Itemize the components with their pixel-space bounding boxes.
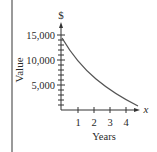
- x-axis-title: Years: [92, 131, 115, 142]
- x-axis-arrow-icon: [134, 108, 140, 112]
- x-tick-label-1: 1: [75, 117, 80, 128]
- y-tick-label-10000: 10,000: [26, 55, 55, 66]
- y-axis-ticks: [57, 35, 65, 105]
- x-axis-arrow-label: x: [143, 103, 149, 115]
- y-unit-label: $: [58, 9, 64, 21]
- x-tick-label-4: 4: [123, 117, 129, 128]
- chart-plot: $ 15,000 10,000 5,000 1 2 3 4 x Years Va…: [0, 0, 157, 152]
- y-axis-arrow-icon: [59, 22, 63, 28]
- y-tick-label-5000: 5,000: [31, 80, 55, 91]
- x-tick-label-2: 2: [91, 117, 96, 128]
- x-tick-label-3: 3: [107, 117, 112, 128]
- y-tick-label-15000: 15,000: [26, 30, 55, 41]
- value-decay-curve: [62, 38, 138, 106]
- y-axis-title: Value: [13, 57, 25, 82]
